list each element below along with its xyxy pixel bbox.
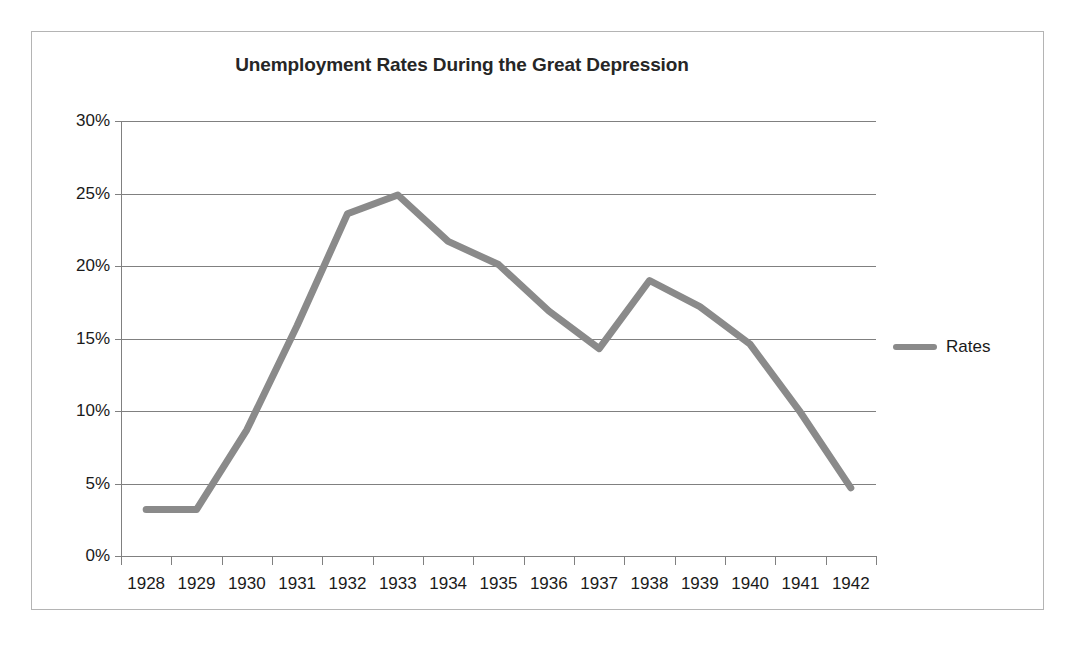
x-axis-label: 1934 bbox=[429, 574, 467, 594]
chart-title: Unemployment Rates During the Great Depr… bbox=[32, 54, 892, 76]
gridline bbox=[121, 556, 876, 557]
legend-label-rates: Rates bbox=[946, 337, 990, 357]
x-axis-label: 1933 bbox=[379, 574, 417, 594]
y-axis-label: 5% bbox=[85, 474, 110, 494]
x-axis-label: 1931 bbox=[278, 574, 316, 594]
x-axis-label: 1939 bbox=[681, 574, 719, 594]
x-axis-tick bbox=[524, 556, 525, 565]
x-axis-label: 1929 bbox=[178, 574, 216, 594]
x-axis-tick bbox=[322, 556, 323, 565]
x-axis-tick bbox=[272, 556, 273, 565]
y-axis-label: 25% bbox=[76, 184, 110, 204]
x-axis-label: 1938 bbox=[631, 574, 669, 594]
x-axis-tick bbox=[222, 556, 223, 565]
x-axis-tick bbox=[373, 556, 374, 565]
chart-frame: Unemployment Rates During the Great Depr… bbox=[31, 31, 1044, 610]
plot-area: 0%5%10%15%20%25%30% 19281929193019311932… bbox=[121, 121, 876, 556]
series-line-rates bbox=[121, 121, 876, 556]
x-axis-label: 1936 bbox=[530, 574, 568, 594]
x-axis-tick bbox=[423, 556, 424, 565]
x-axis-tick bbox=[473, 556, 474, 565]
legend: Rates bbox=[893, 337, 990, 357]
x-axis-tick bbox=[775, 556, 776, 565]
y-axis-label: 30% bbox=[76, 111, 110, 131]
y-axis-label: 0% bbox=[85, 546, 110, 566]
x-axis-tick bbox=[826, 556, 827, 565]
x-axis-tick bbox=[675, 556, 676, 565]
x-axis-tick bbox=[171, 556, 172, 565]
x-axis-label: 1940 bbox=[731, 574, 769, 594]
x-axis-label: 1928 bbox=[127, 574, 165, 594]
x-axis-label: 1932 bbox=[329, 574, 367, 594]
x-axis-tick bbox=[876, 556, 877, 565]
x-axis-tick bbox=[725, 556, 726, 565]
x-axis-tick bbox=[574, 556, 575, 565]
y-axis-label: 10% bbox=[76, 401, 110, 421]
x-axis-label: 1935 bbox=[480, 574, 518, 594]
legend-swatch-rates bbox=[893, 344, 937, 350]
x-axis-label: 1937 bbox=[580, 574, 618, 594]
y-axis-label: 15% bbox=[76, 329, 110, 349]
x-axis-label: 1930 bbox=[228, 574, 266, 594]
x-axis-label: 1942 bbox=[832, 574, 870, 594]
x-axis-tick bbox=[121, 556, 122, 565]
y-axis-label: 20% bbox=[76, 256, 110, 276]
x-axis-tick bbox=[624, 556, 625, 565]
x-axis-label: 1941 bbox=[782, 574, 820, 594]
